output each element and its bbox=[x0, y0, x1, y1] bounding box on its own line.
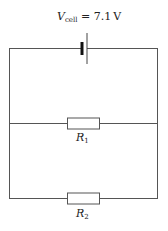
r2-subscript: 2 bbox=[84, 213, 88, 221]
resistor-r2 bbox=[68, 193, 100, 204]
circuit-diagram bbox=[0, 0, 168, 231]
resistor-r1-label: R1 bbox=[76, 131, 89, 145]
cell-symbol: V bbox=[57, 10, 65, 23]
cell-equals: = bbox=[81, 10, 90, 23]
cell-unit: V bbox=[113, 10, 121, 23]
cell-value: 7.1 bbox=[94, 10, 112, 23]
resistor-r2-label: R2 bbox=[76, 207, 89, 221]
cell-voltage-label: Vcell = 7.1V bbox=[57, 10, 121, 24]
cell-subscript: cell bbox=[65, 16, 78, 24]
r1-subscript: 1 bbox=[84, 137, 88, 145]
resistor-r1 bbox=[68, 118, 100, 129]
